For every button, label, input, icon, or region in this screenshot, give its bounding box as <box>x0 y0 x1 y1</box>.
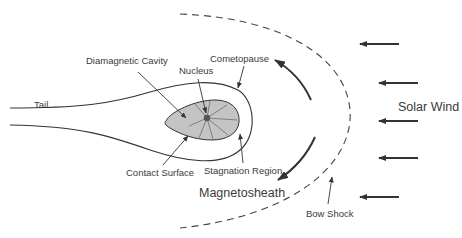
solar-wind-arrows <box>360 44 418 197</box>
flow-arrow-lower <box>278 137 315 180</box>
cometopause-pointer <box>238 66 244 88</box>
label-contact-surface: Contact Surface <box>126 168 194 178</box>
label-stagnation-region: Stagnation Region <box>204 166 282 176</box>
label-tail: Tail <box>34 100 48 110</box>
diagram-canvas <box>0 0 462 238</box>
stagnation-region-pointer <box>240 134 243 163</box>
comet-diagram: Diamagnetic Cavity Nucleus Cometopause T… <box>0 0 462 238</box>
label-diamagnetic-cavity: Diamagnetic Cavity <box>86 56 168 66</box>
label-nucleus: Nucleus <box>179 66 213 76</box>
flow-arrow-upper <box>275 60 311 100</box>
label-magnetosheath: Magnetosheath <box>199 187 285 200</box>
bow-shock-pointer <box>328 177 332 204</box>
diamagnetic-cavity-pointer <box>138 72 186 118</box>
label-cometopause: Cometopause <box>210 54 269 64</box>
contact-surface-pointer <box>163 136 188 165</box>
label-bow-shock: Bow Shock <box>306 209 354 219</box>
nucleus-dot <box>204 115 210 121</box>
label-solar-wind: Solar Wind <box>398 101 459 114</box>
